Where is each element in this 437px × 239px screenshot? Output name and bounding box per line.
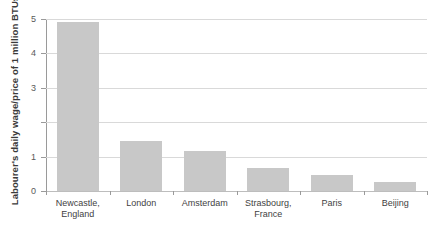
x-tick-mark bbox=[237, 191, 238, 195]
bar-slot bbox=[110, 19, 174, 191]
bar-slot bbox=[300, 19, 364, 191]
bar[interactable] bbox=[120, 141, 162, 191]
y-tick-mark bbox=[41, 53, 46, 54]
bar[interactable] bbox=[184, 151, 226, 191]
y-axis-title: Labourer's daily wage/price of 1 million… bbox=[0, 0, 30, 200]
x-axis-label-line: Newcastle, bbox=[56, 198, 100, 208]
x-tick-mark bbox=[46, 191, 47, 195]
y-tick-mark bbox=[41, 122, 46, 123]
bar[interactable] bbox=[311, 175, 353, 192]
y-tick-label: 1 bbox=[2, 152, 36, 162]
x-axis-label-line: Amsterdam bbox=[182, 198, 228, 208]
y-tick-label: 0 bbox=[2, 186, 36, 196]
x-tick-mark bbox=[364, 191, 365, 195]
y-tick-mark bbox=[41, 157, 46, 158]
y-tick-label: 4 bbox=[2, 48, 36, 58]
bar[interactable] bbox=[374, 182, 416, 191]
x-axis-label: Beijing bbox=[350, 198, 437, 209]
y-tick-label: 3 bbox=[2, 83, 36, 93]
plot-area bbox=[46, 19, 427, 191]
x-tick-mark bbox=[110, 191, 111, 195]
x-tick-mark bbox=[173, 191, 174, 195]
bar[interactable] bbox=[247, 168, 289, 191]
y-tick-label: 5 bbox=[2, 14, 36, 24]
y-tick-mark bbox=[41, 88, 46, 89]
x-tick-mark bbox=[427, 191, 428, 195]
y-axis-title-text: Labourer's daily wage/price of 1 million… bbox=[10, 0, 21, 205]
x-tick-mark bbox=[300, 191, 301, 195]
bar[interactable] bbox=[57, 22, 99, 191]
x-axis-label-line: England bbox=[33, 209, 123, 220]
bar-slot bbox=[173, 19, 237, 191]
bar-slot bbox=[46, 19, 110, 191]
x-axis-label-line: Paris bbox=[321, 198, 342, 208]
bar-chart: Labourer's daily wage/price of 1 million… bbox=[0, 0, 437, 239]
x-axis-label-line: Strasbourg, bbox=[245, 198, 292, 208]
y-tick-mark bbox=[41, 19, 46, 20]
bar-slot bbox=[237, 19, 301, 191]
bar-slot bbox=[364, 19, 428, 191]
x-axis-label-line: London bbox=[126, 198, 156, 208]
x-axis-label-line: Beijing bbox=[382, 198, 409, 208]
x-axis-label-line: France bbox=[223, 209, 313, 220]
